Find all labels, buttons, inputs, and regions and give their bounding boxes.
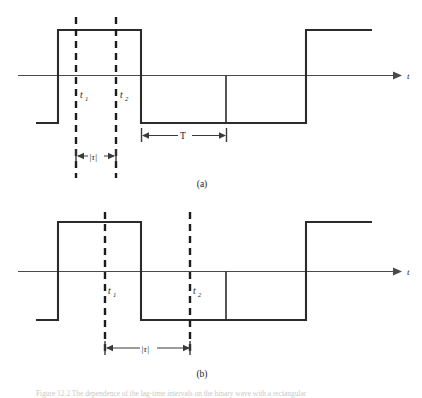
panel-b-label-t1-subscript: 1 <box>113 291 116 298</box>
panel-b-label: (b) <box>196 369 207 380</box>
panel-a-axis-label: t <box>407 71 410 81</box>
panel-a-label-t1: t 1 <box>80 90 88 102</box>
panel-b-axis-arrowhead <box>393 268 402 276</box>
panel-b-label-t2: t 2 <box>193 286 202 298</box>
panel-a-dimension-period: T <box>142 128 227 142</box>
panel-a-label-t1-base: t <box>80 90 83 100</box>
panel-b-dimension-tau: |τ| <box>105 340 190 355</box>
panel-a-label-t2: t 2 <box>120 90 129 102</box>
panel-a-dimension-tau-arrow-right <box>108 153 115 159</box>
panel-a-dimension-tau-label: |τ| <box>89 152 97 162</box>
panel-b-label-t1-base: t <box>108 286 111 296</box>
panel-b: t t 1 t 2 <box>18 212 410 380</box>
panel-a-dimension-period-arrow-left <box>142 132 149 138</box>
figure-caption: Figure 12.2 The dependence of the lag-ti… <box>36 389 396 398</box>
panel-b-label-t2-base: t <box>193 286 196 296</box>
panel-b-dimension-tau-label: |τ| <box>141 344 149 354</box>
panel-a-label-t2-subscript: 2 <box>125 95 129 102</box>
panel-a: t t 1 t 2 <box>18 17 410 190</box>
panel-a-dimension-tau-arrow-left <box>77 153 84 159</box>
panel-a-axis-arrowhead <box>393 72 402 80</box>
panel-b-label-t2-subscript: 2 <box>198 291 202 298</box>
panel-a-waveform <box>36 30 372 123</box>
panel-a-dimension-tau: |τ| <box>76 149 116 163</box>
panel-a-label-t2-base: t <box>120 90 123 100</box>
panel-b-time-axis <box>18 268 402 276</box>
panel-a-label: (a) <box>197 179 208 190</box>
panel-a-label-t1-subscript: 1 <box>85 95 88 102</box>
panel-b-dimension-tau-arrow-left <box>106 345 113 351</box>
panel-a-dimension-period-arrow-right <box>219 132 226 138</box>
panel-a-dimension-period-label: T <box>180 131 186 141</box>
panel-b-axis-label: t <box>407 267 410 277</box>
panel-b-label-t1: t 1 <box>108 286 116 298</box>
